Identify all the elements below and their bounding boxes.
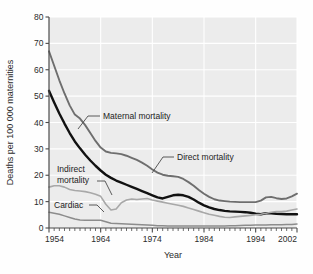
x-axis-title: Year — [164, 250, 182, 260]
x-tick-label: 1984 — [195, 234, 214, 244]
y-tick-label: 10 — [34, 197, 44, 207]
x-tick-label: 1974 — [143, 234, 162, 244]
x-tick-label: 2002 — [278, 234, 297, 244]
x-tick-label: 1994 — [246, 234, 265, 244]
y-tick-label: 40 — [34, 118, 44, 128]
y-tick-label: 60 — [34, 65, 44, 75]
y-tick-label: 30 — [34, 144, 44, 154]
y-tick-label: 50 — [34, 91, 44, 101]
y-axis-title: Deaths per 100 000 maternities — [5, 59, 15, 185]
annotation-cardiac: Cardiac — [54, 200, 84, 210]
x-tick-label: 1954 — [45, 234, 64, 244]
line-chart: 0102030405060708019541964197419841994200… — [0, 0, 313, 274]
y-tick-label: 80 — [34, 12, 44, 22]
x-tick-label: 1964 — [91, 234, 110, 244]
annotation-direct-mortality: Direct mortality — [177, 152, 234, 162]
annotation-maternal-mortality: Maternal mortality — [103, 111, 171, 121]
chart-figure: 0102030405060708019541964197419841994200… — [0, 0, 313, 274]
y-tick-label: 70 — [34, 38, 44, 48]
y-tick-label: 0 — [39, 223, 44, 233]
y-tick-label: 20 — [34, 170, 44, 180]
